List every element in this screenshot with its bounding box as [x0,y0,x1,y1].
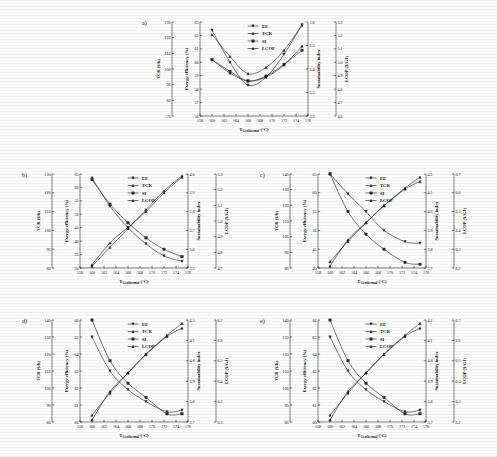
x-tick-label: 170 [387,270,393,275]
y-tick-label: 66 [312,318,316,323]
legend-item-ee[interactable]: EE [366,176,387,181]
data-point [91,178,93,180]
y-axis-si: 3.53.63.73.83.94.0Sustainability index [186,172,201,271]
data-point [347,210,349,212]
y-tick-label: 90 [284,403,288,408]
y-tick-label: 3.9 [428,228,433,233]
legend-marker-tcr [370,330,372,332]
x-tick-label: 166 [125,424,131,429]
y-axis-title-lcop: LCOP ($/GJ) [344,55,349,82]
y-tick-label: 5.3 [218,172,223,177]
y-tick-label: 65 [74,172,78,177]
legend-item-si[interactable]: SI [366,191,385,196]
y-tick-label: 130 [44,335,50,340]
series-line [212,25,302,86]
legend-item-lcop[interactable]: LCOP [248,46,275,51]
legend-item-lcop[interactable]: LCOP [128,198,155,203]
legend-item-si[interactable]: SI [248,39,267,44]
legend-item-tcr[interactable]: TCR [248,31,273,36]
y-axis-ee: 3035404550556065Exergy efficiency (%) [64,172,82,271]
legend-marker-ee [370,323,372,325]
y-tick-label: 55 [312,209,316,214]
x-tick-label: 158 [315,424,321,429]
legend-item-tcr[interactable]: TCR [128,329,153,334]
y-tick-label: 50 [74,212,78,217]
legend-label: SI [380,191,385,196]
panel-e-canvas: e)158160162164166168170172174176TGeother… [256,308,488,448]
legend-item-lcop[interactable]: LCOP [128,344,155,349]
y-tick-label: 3.7 [428,420,433,425]
y-tick-label: 3.7 [190,228,195,233]
y-tick-label: 50 [312,228,316,233]
series-line [92,328,182,420]
x-axis-title: TGeothermal (°C) [119,279,149,285]
x-axis-title: TGeothermal (°C) [119,433,149,439]
y-tick-label: 6.5 [218,358,223,363]
y-tick-label: 70 [166,114,170,119]
series-line [92,176,182,266]
y-tick-label: 90 [46,403,50,408]
legend-marker-si [370,338,372,340]
y-tick-label: 65 [74,335,78,340]
data-point [211,29,213,31]
data-point [145,396,147,398]
x-tick-label: 174 [173,424,179,429]
legend-item-ee[interactable]: EE [248,24,269,29]
y-axis-lcop: 4.64.74.84.95.05.15.25.3LCOP ($/GJ) [334,20,349,119]
y-axis-title-si: Sustainability index [316,49,321,89]
y-tick-label: 5.2 [218,187,223,192]
x-tick-label: 170 [149,424,155,429]
y-tick-label: 59 [194,73,198,78]
legend-item-tcr[interactable]: TCR [366,183,391,188]
y-tick-label: 55 [74,198,78,203]
legend-item-ee[interactable]: EE [366,322,387,327]
x-tick-label: 172 [399,424,405,429]
data-point [419,409,421,411]
y-axis-si: 3.73.83.94.04.14.2Sustainability index [186,318,201,425]
y-tick-label: 3.7 [190,420,195,425]
y-tick-label: 3.8 [428,247,433,252]
y-tick-label: 110 [283,219,289,224]
y-tick-label: 60 [194,60,198,65]
series-si [91,178,183,257]
legend-item-ee[interactable]: EE [128,322,149,327]
x-tick-label: 158 [77,270,83,275]
legend-item-si[interactable]: SI [128,337,147,342]
y-tick-label: 80 [46,420,50,425]
data-point [347,360,349,362]
legend-label: LCOP [142,198,155,203]
legend-marker-lcop [132,345,134,347]
legend-marker-ee [370,177,372,179]
y-tick-label: 63 [74,369,78,374]
data-point [247,84,249,86]
legend-item-ee[interactable]: EE [128,176,149,181]
legend-item-lcop[interactable]: LCOP [366,198,393,203]
legend-item-si[interactable]: SI [128,191,147,196]
legend-item-tcr[interactable]: TCR [128,183,153,188]
y-axis-si: 3.73.83.94.04.14.2Sustainability index [424,318,439,425]
y-axis-title-lcop: LCOP ($/GJ) [224,357,229,384]
data-point [247,73,249,75]
y-axis-tcr: 8090100110120130140TCR ($/h) [36,318,54,425]
y-tick-label: 4.0 [190,358,195,363]
legend-label: SI [262,39,267,44]
y-tick-label: 4.8 [218,250,223,255]
x-tick-label: 160 [327,270,333,275]
y-axis-title-si: Sustainability index [434,201,439,241]
legend-item-si[interactable]: SI [366,337,385,342]
series-tcr [211,24,303,75]
legend-label: TCR [380,329,390,334]
legend-item-lcop[interactable]: LCOP [366,344,393,349]
chart-panel-b: b)158160162164166168170172174176TGeother… [18,162,250,294]
x-tick-label: 172 [281,118,287,123]
y-tick-label: 80 [46,266,50,271]
legend-item-tcr[interactable]: TCR [366,329,391,334]
y-tick-label: 80 [166,98,170,103]
y-tick-label: 130 [282,335,288,340]
x-tick-label: 166 [245,118,251,123]
y-axis-title-tcr: TCR ($/h) [36,361,41,382]
x-axis: 158160162164166168170172174176 [77,420,191,429]
y-tick-label: 3.4 [310,67,315,72]
series-ee [329,173,421,244]
panel-a-canvas: a)158160162164166168170172174176TGeother… [138,10,370,142]
